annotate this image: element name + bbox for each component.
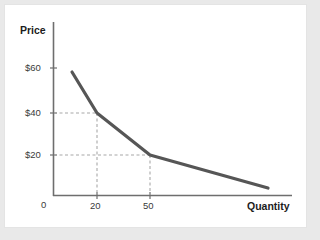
y-tick-label-60: $60: [25, 63, 41, 73]
x-axis-title: Quantity: [247, 201, 290, 212]
y-axis-title: Price: [20, 25, 46, 36]
y-tick-label-40: $40: [25, 108, 41, 118]
x-tick-label-50: 50: [143, 201, 154, 211]
y-tick-label-20: $20: [25, 150, 41, 160]
origin-label: 0: [41, 200, 46, 210]
demand-curve-line: [72, 72, 268, 188]
x-tick-label-20: 20: [90, 201, 101, 211]
